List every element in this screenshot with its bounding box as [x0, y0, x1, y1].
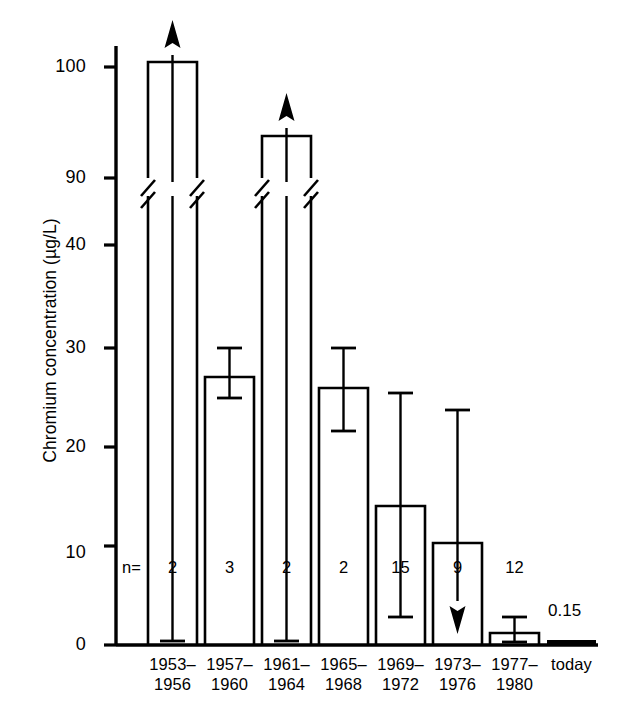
n-value-1969-1972: 15 — [376, 558, 425, 577]
x-label-line2: 1980 — [477, 674, 552, 694]
bar-group-today[interactable] — [547, 640, 596, 645]
arrow-up-1961 — [279, 93, 295, 121]
bar-group-1965-1968[interactable] — [319, 348, 368, 645]
bar-group-1977-1980[interactable] — [490, 617, 539, 645]
arrow-up-1953 — [165, 20, 181, 48]
bar-group-1973-1976[interactable] — [433, 410, 482, 645]
n-value-1977-1980: 12 — [490, 558, 539, 577]
today-value-annotation: 0.15 — [548, 601, 581, 621]
bar-group-1953-1956[interactable] — [141, 20, 204, 645]
n-value-1953-1956: 2 — [148, 558, 197, 577]
bar-body-today — [547, 640, 596, 645]
bar-body-1957 — [205, 377, 254, 645]
plot-canvas — [0, 0, 624, 716]
x-label-line1: today — [534, 654, 609, 674]
n-value-1961-1964: 2 — [262, 558, 311, 577]
bar-group-1969-1972[interactable] — [376, 393, 425, 645]
arrow-down-1973 — [450, 606, 466, 634]
chart-figure: ˙˙ Chromium concentration (µg/L) 100 90 … — [0, 0, 624, 716]
n-value-1973-1976: 9 — [433, 558, 482, 577]
y-axis-ticks — [104, 67, 116, 645]
n-prefix-label: n= — [122, 558, 141, 577]
bar-group-1957-1960[interactable] — [205, 348, 254, 645]
n-value-1965-1968: 2 — [319, 558, 368, 577]
x-label-today: today — [534, 654, 609, 674]
n-value-1957-1960: 3 — [205, 558, 254, 577]
axis-lines — [116, 46, 598, 645]
